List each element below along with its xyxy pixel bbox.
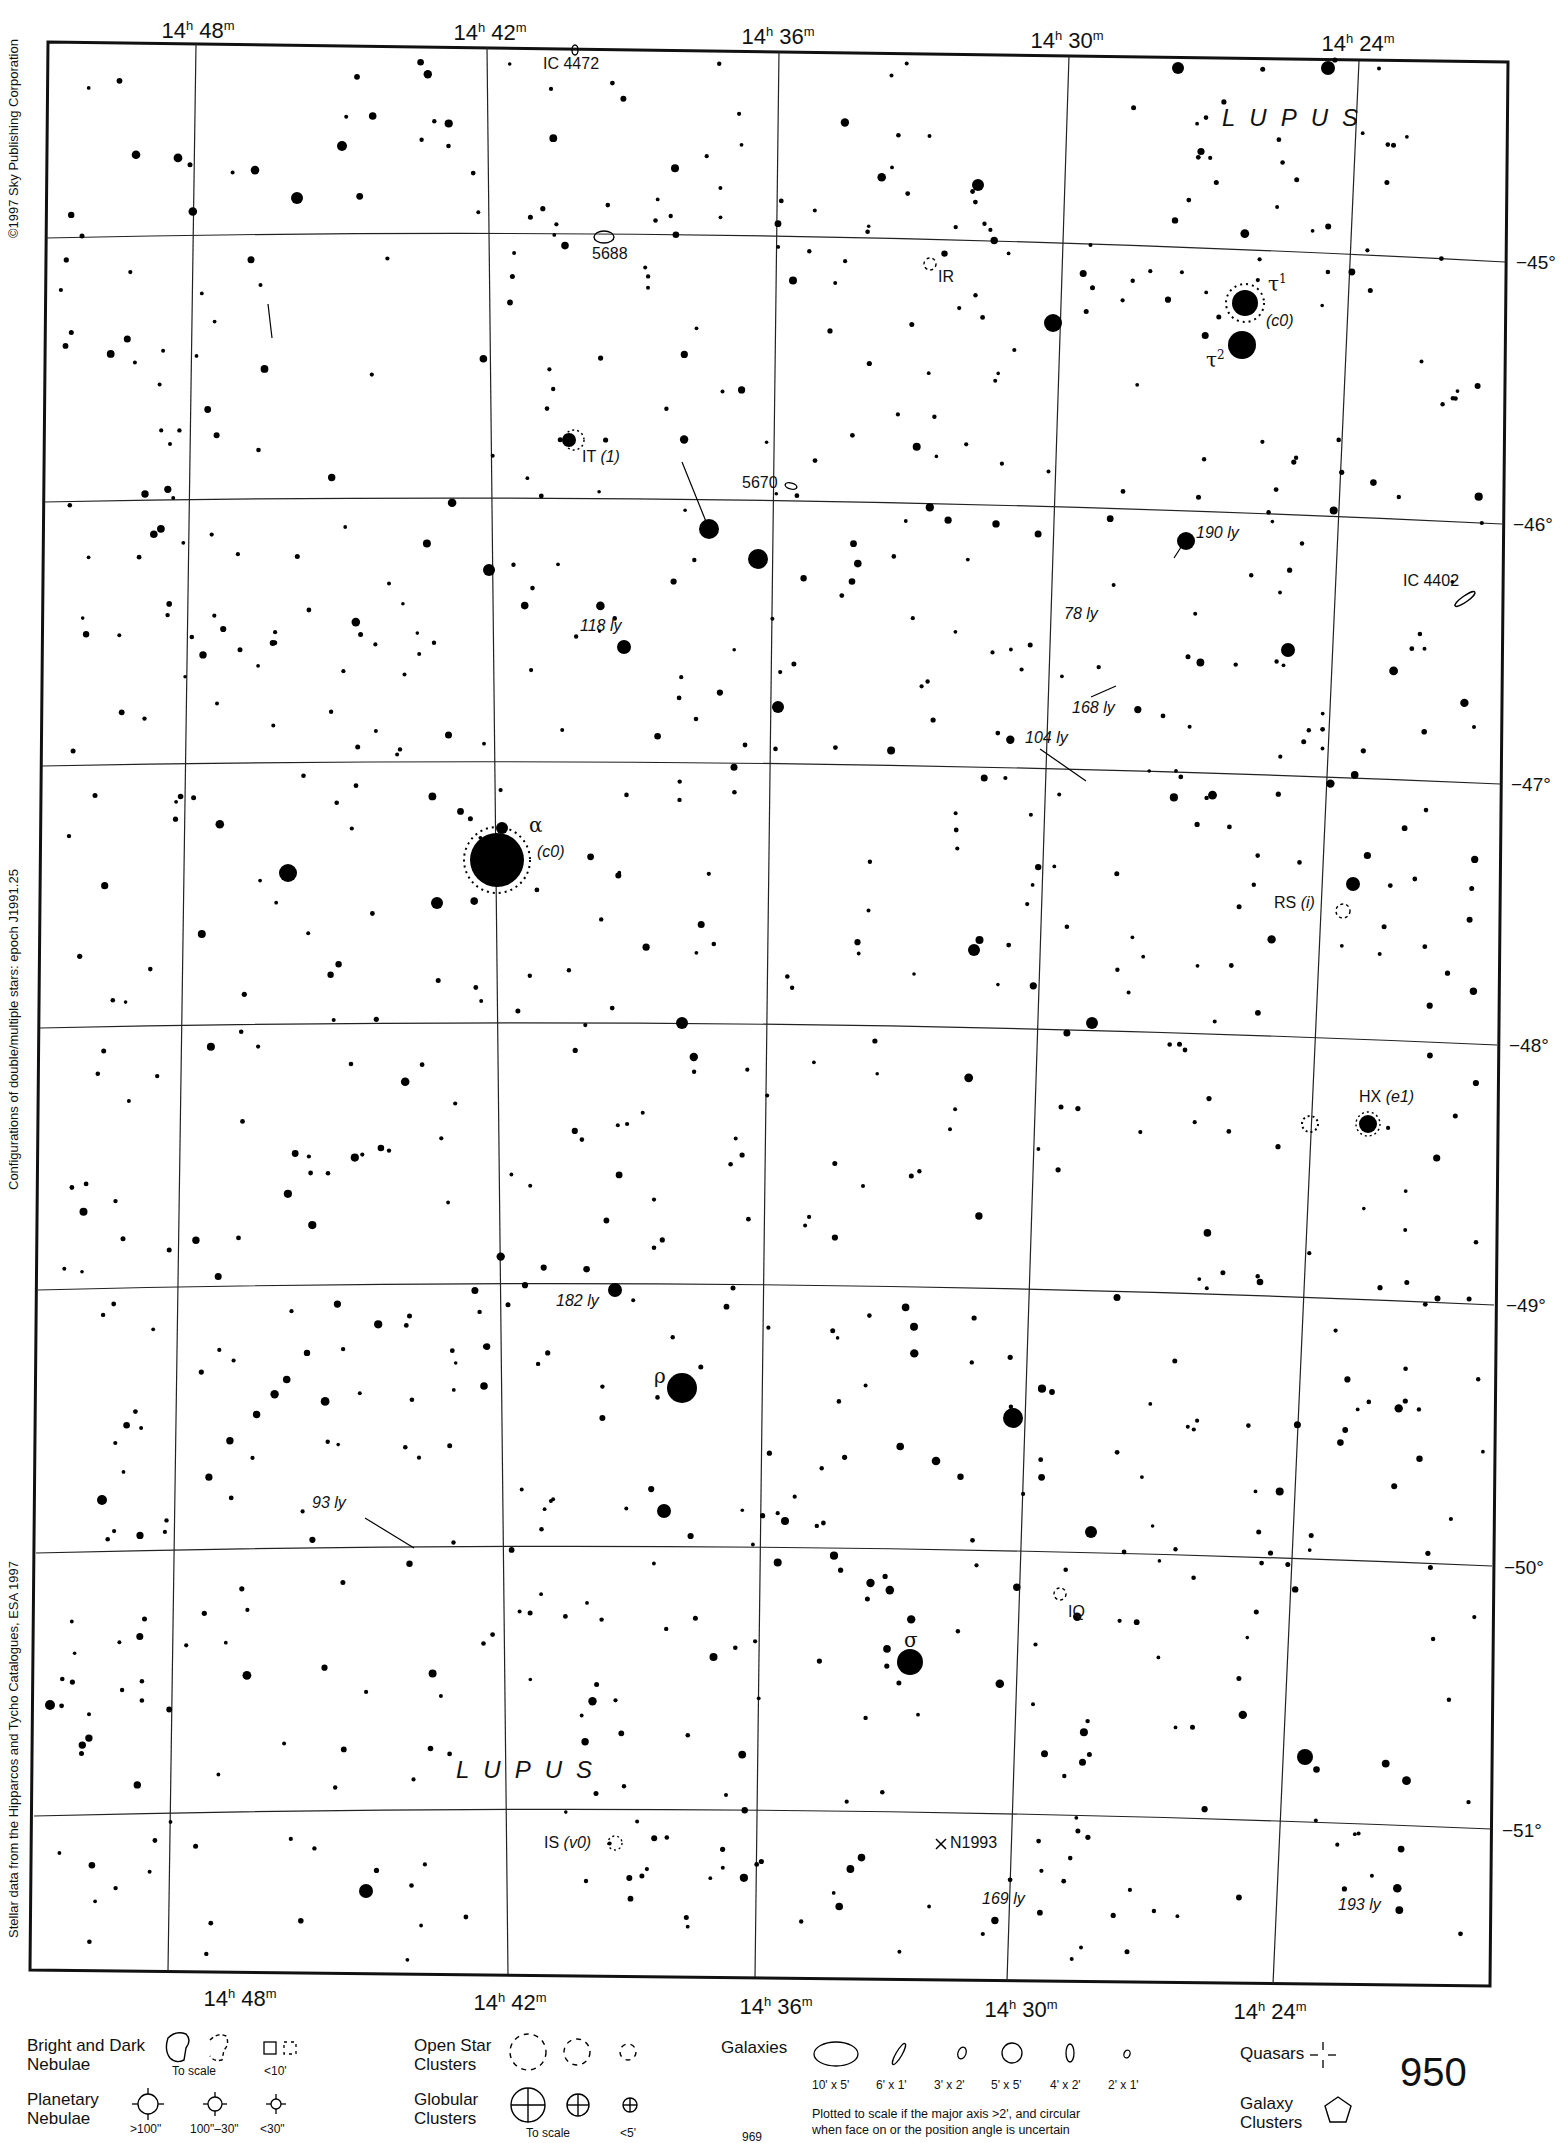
globular-cluster-icons — [506, 2083, 646, 2127]
label-tau2: τ2 — [1206, 348, 1225, 372]
ra-label-bottom: 14h 48m — [203, 1986, 276, 2012]
legend-nebulae-small: <10' — [264, 2064, 287, 2078]
legend-galaxy-size: 2' x 1' — [1108, 2078, 1139, 2092]
dec-label: −48° — [1509, 1035, 1549, 1057]
ra-label-top: 14h 30m — [1030, 28, 1103, 54]
open-cluster-icons — [506, 2030, 646, 2074]
quasar-icon — [1308, 2040, 1338, 2070]
deep-sky-objects — [572, 45, 1477, 1850]
label-78ly: 78 ly — [1064, 605, 1098, 623]
page-number: 950 — [1400, 2050, 1467, 2095]
field-stars — [58, 57, 1485, 1961]
star-sigma — [897, 1649, 923, 1675]
legend-open-clusters-title: Open StarClusters — [414, 2036, 492, 2074]
legend-galaxy-size: 3' x 2' — [934, 2078, 965, 2092]
legend-galaxies-title: Galaxies — [721, 2038, 787, 2057]
label-5688: 5688 — [592, 245, 628, 263]
constellation-name-top: LUPUS — [1222, 104, 1372, 132]
label-190ly: 190 ly — [1196, 524, 1239, 542]
copyright-text: ©1997 Sky Publishing Corporation — [6, 39, 21, 238]
label-iq: IQ — [1068, 1603, 1085, 1621]
epoch-note: Configurations of double/multiple stars:… — [6, 869, 21, 1190]
label-rho: ρ — [654, 1364, 666, 1388]
dec-label: −50° — [1504, 1557, 1544, 1579]
legend-galaxy-clusters-title: GalaxyClusters — [1240, 2094, 1302, 2132]
legend-galaxy-size: 10' x 5' — [812, 2078, 849, 2092]
legend-galaxy-note: Plotted to scale if the major axis >2', … — [812, 2106, 1080, 2138]
label-104ly: 104 ly — [1025, 729, 1068, 747]
legend-globular-scale: To scale — [526, 2126, 570, 2140]
galaxy-cluster-icon — [1322, 2094, 1354, 2126]
ra-label-top: 14h 36m — [741, 24, 814, 50]
nova-marker — [936, 1839, 946, 1849]
constellation-name-bottom: LUPUS — [456, 1756, 606, 1784]
label-sigma: σ — [904, 1628, 918, 1652]
legend-galaxy-size: 6' x 1' — [876, 2078, 907, 2092]
label-tau1: τ1 — [1268, 272, 1287, 296]
galaxy-icons — [810, 2036, 1160, 2072]
ra-label-top: 14h 48m — [161, 18, 234, 44]
label-alpha-note: (c0) — [537, 843, 565, 861]
label-5670: 5670 — [742, 474, 778, 492]
legend-planetary-cap: <30" — [260, 2122, 285, 2136]
planetary-icons — [128, 2084, 308, 2126]
dec-label: −49° — [1506, 1295, 1546, 1317]
bright-stars — [45, 61, 1377, 1898]
ra-label-bottom: 14h 42m — [473, 1990, 546, 2016]
ra-label-bottom: 14h 30m — [984, 1997, 1057, 2023]
legend-nebulae-title: Bright and DarkNebulae — [27, 2036, 145, 2074]
legend-planetary-cap: >100" — [130, 2122, 161, 2136]
legend-galaxy-size: 5' x 5' — [991, 2078, 1022, 2092]
label-93ly: 93 ly — [312, 1494, 346, 1512]
cluster-ir — [924, 258, 936, 270]
label-is: IS (v0) — [544, 1834, 591, 1852]
star-tau1 — [1232, 290, 1258, 316]
ra-label-top: 14h 24m — [1321, 31, 1394, 57]
dec-grid — [34, 233, 1505, 1829]
label-tau1-note: (c0) — [1266, 312, 1294, 330]
label-182ly: 182 ly — [556, 1292, 599, 1310]
ra-label-top: 14h 42m — [453, 20, 526, 46]
label-ic4402: IC 4402 — [1403, 572, 1459, 590]
dec-label: −45° — [1516, 252, 1556, 274]
dec-label: −46° — [1513, 514, 1553, 536]
legend-globular-title: GlobularClusters — [414, 2090, 478, 2128]
legend-galaxy-size: 4' x 2' — [1050, 2078, 1081, 2092]
label-169ly: 169 ly — [982, 1890, 1025, 1908]
legend-nebulae-scale: To scale — [172, 2064, 216, 2078]
cluster-iq — [1054, 1588, 1066, 1600]
label-it: IT (1) — [582, 448, 620, 466]
proper-motion-arrows — [268, 304, 1185, 1548]
star-chart — [0, 0, 1568, 2143]
dec-label: −47° — [1511, 774, 1551, 796]
cluster-rs — [1336, 904, 1350, 918]
galaxy-ic4402 — [1453, 590, 1476, 609]
legend-planetary-cap: 100"–30" — [190, 2122, 239, 2136]
galaxy-5688 — [594, 231, 614, 243]
star-alpha — [470, 833, 524, 887]
ra-label-bottom: 14h 24m — [1233, 1999, 1306, 2025]
legend-quasars-title: Quasars — [1240, 2044, 1304, 2063]
label-rs: RS (i) — [1274, 894, 1315, 912]
label-n1993: N1993 — [950, 1834, 997, 1852]
label-hx: HX (e1) — [1359, 1088, 1414, 1106]
galaxy-5670 — [784, 482, 797, 491]
label-168ly: 168 ly — [1072, 699, 1115, 717]
legend-planetary-title: PlanetaryNebulae — [27, 2090, 99, 2128]
label-118ly: 118 ly — [580, 617, 622, 635]
label-ic4472: IC 4472 — [543, 55, 599, 73]
ra-label-bottom: 14h 36m — [739, 1994, 812, 2020]
legend-globular-small: <5' — [620, 2126, 636, 2140]
label-193ly: 193 ly — [1338, 1896, 1381, 1914]
dec-label: −51° — [1502, 1820, 1542, 1842]
star-tau2 — [1228, 331, 1256, 359]
star-rho — [667, 1373, 697, 1403]
data-source-note: Stellar data from the Hipparcos and Tych… — [6, 1561, 21, 1938]
facing-page-number: 969 — [742, 2130, 762, 2143]
label-ir: IR — [938, 268, 954, 286]
label-alpha: α — [529, 813, 543, 837]
ra-grid — [168, 44, 1359, 1984]
